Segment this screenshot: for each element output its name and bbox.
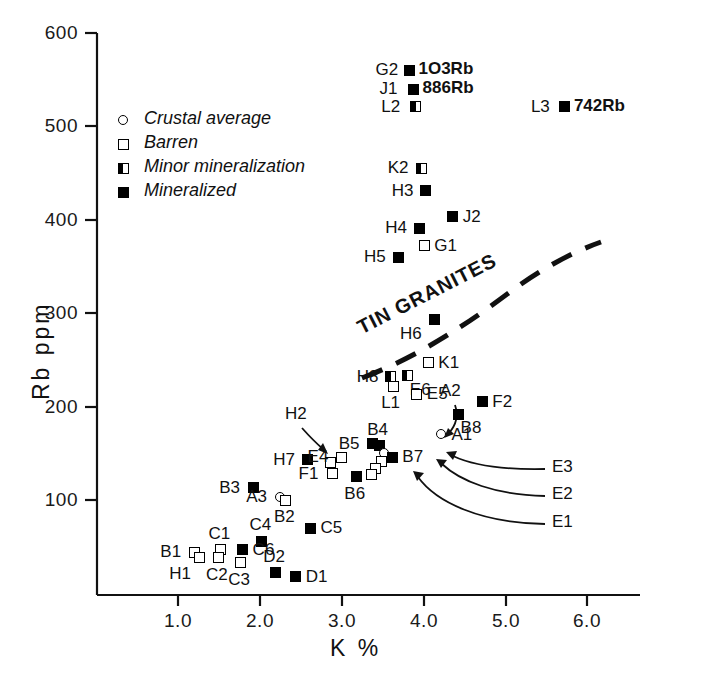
data-point-label-h1: H1	[169, 564, 191, 584]
chart-points-layer: G21O3RbJ1886RbL2L3742RbK2H3J2H4G1H5H6K1H…	[0, 0, 705, 677]
data-point-b2	[280, 495, 291, 506]
data-point-a1	[436, 429, 446, 439]
data-point-label-c4: C4	[249, 515, 271, 535]
data-point-l3	[559, 101, 570, 112]
data-point-label-c3: C3	[228, 570, 250, 590]
data-point-d1	[290, 571, 301, 582]
data-point-label-h2: H2	[285, 404, 307, 424]
data-point-h4	[414, 223, 425, 234]
data-point-label-h5: H5	[364, 247, 386, 267]
data-point-label-k1: K1	[438, 353, 459, 373]
data-point-label-h3: H3	[392, 181, 414, 201]
data-point-label-a3: A3	[246, 487, 267, 507]
data-point-g1	[419, 240, 430, 251]
data-point-label-f2: F2	[492, 392, 512, 412]
data-point-c3	[235, 557, 246, 568]
data-point-label-j2: J2	[463, 207, 481, 227]
data-point-label-c5: C5	[321, 518, 343, 538]
data-point-c2	[213, 552, 224, 563]
data-point-j2	[447, 211, 458, 222]
data-point-k2	[416, 163, 427, 174]
data-point-label-a2: A2	[440, 381, 461, 401]
data-point-g2	[404, 65, 415, 76]
data-point-label-h7: H7	[273, 450, 295, 470]
data-point-c6	[237, 544, 248, 555]
data-point-h1	[194, 552, 205, 563]
data-point-label-b3: B3	[219, 478, 240, 498]
data-point-value-j1: 886Rb	[423, 78, 474, 98]
data-point-label-l3: L3	[531, 97, 550, 117]
data-point-c5	[305, 523, 316, 534]
data-point-label-k2: K2	[388, 158, 409, 178]
data-point-h5	[393, 252, 404, 263]
data-point-label-c1: C1	[209, 524, 231, 544]
data-point-f2	[477, 396, 488, 407]
data-point-label-e2: E2	[552, 484, 573, 504]
data-point-label-h6: H6	[400, 324, 422, 344]
data-point-b7	[387, 452, 398, 463]
data-point-label-g1: G1	[434, 236, 457, 256]
data-point-value-g2: 1O3Rb	[418, 59, 473, 79]
data-point-label-g2: G2	[375, 60, 398, 80]
data-point-label-b7: B7	[402, 447, 423, 467]
data-point-label-b1: B1	[160, 542, 181, 562]
data-point-f1	[327, 468, 338, 479]
data-point-b6	[351, 471, 362, 482]
data-point-label-e1: E1	[552, 512, 573, 532]
data-point-label-b2: B2	[274, 507, 295, 527]
data-point-e5	[411, 389, 422, 400]
data-point-value-l3: 742Rb	[574, 96, 625, 116]
data-point-d2	[270, 567, 281, 578]
data-point-label-d2: D2	[263, 547, 285, 567]
data-point-label-h4: H4	[385, 218, 407, 238]
data-point-label-d1: D1	[306, 567, 328, 587]
data-point-h6	[429, 314, 440, 325]
data-point-label-c2: C2	[206, 565, 228, 585]
data-point-e4	[336, 452, 347, 463]
data-point-label-b6: B6	[344, 484, 365, 504]
data-point-h3	[420, 185, 431, 196]
data-point-k1	[423, 357, 434, 368]
data-point-label-l1: L1	[381, 393, 400, 413]
data-point-label-e3: E3	[552, 457, 573, 477]
data-point-label-f1: F1	[299, 464, 319, 484]
data-point-label-a1: A1	[451, 425, 472, 445]
data-point-label-b4: B4	[367, 420, 388, 440]
data-point-label-l2: L2	[381, 97, 400, 117]
data-point-l2	[410, 101, 421, 112]
data-point-label-h8: H8	[357, 367, 379, 387]
rb-vs-k-scatter-chart: 600 500 400 300 200 100 1.0 2.0 3.0 4.0 …	[0, 0, 705, 677]
data-point-e1	[366, 469, 377, 480]
data-point-l1	[388, 381, 399, 392]
data-point-j1	[408, 84, 419, 95]
